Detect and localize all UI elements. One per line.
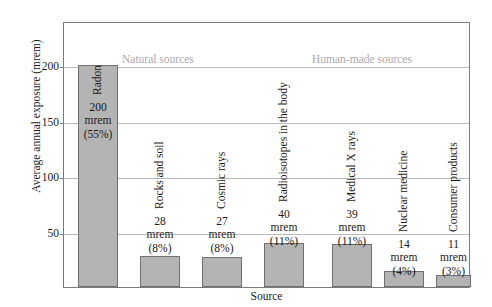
y-axis-tick-label: 50 <box>13 228 59 240</box>
y-axis-tick-mark <box>60 67 64 68</box>
x-axis-title: Source <box>63 290 470 302</box>
bar[interactable] <box>78 65 118 287</box>
y-axis-tick-label: 150 <box>13 117 59 129</box>
bar-value-label: 28mrem(8%) <box>147 215 174 255</box>
plot-area: 50100150200 Natural sources Human-made s… <box>63 22 470 288</box>
bar-value-label: 39mrem(11%) <box>338 208 366 248</box>
bar-category-label: Rocks and soil <box>154 141 166 209</box>
radiation-exposure-bar-chart: Average annual exposure (mrem) 501001502… <box>0 0 492 307</box>
bar-category-label: Nuclear medicine <box>398 151 410 232</box>
y-axis-tick-label: 200 <box>13 62 59 74</box>
bar-value-label: 14mrem(4%) <box>391 238 418 278</box>
bar-value-label: 11mrem(3%) <box>440 238 467 278</box>
bar-value-label: 40mrem(11%) <box>270 208 298 248</box>
y-axis-tick-mark <box>60 234 64 235</box>
bar-group: Consumer products11mrem(3%) <box>436 23 471 287</box>
y-axis-tick-mark <box>60 178 64 179</box>
bar-group: Nuclear medicine14mrem(4%) <box>384 23 424 287</box>
bar-group: Cosmic rays27mrem(8%) <box>202 23 242 287</box>
bar-value-label: 27mrem(8%) <box>209 215 236 255</box>
bar-group: Rocks and soil28mrem(8%) <box>140 23 180 287</box>
y-axis-tick-label: 100 <box>13 172 59 184</box>
bar-category-label: Cosmic rays <box>216 152 228 209</box>
y-axis-tick-mark <box>60 123 64 124</box>
bar[interactable] <box>332 244 372 287</box>
bar-value-label: 200mrem(55%) <box>84 101 113 141</box>
bar-group: Medical X rays39mrem(11%) <box>332 23 372 287</box>
bar[interactable] <box>264 243 304 287</box>
bar-group: Radon200mrem(55%) <box>78 23 118 287</box>
bar-category-label: Radioisotopes in the body <box>278 82 290 202</box>
bar[interactable] <box>140 256 180 287</box>
bar-category-label: Medical X rays <box>346 131 358 202</box>
bar-group: Radioisotopes in the body40mrem(11%) <box>264 23 304 287</box>
bar-category-label: Consumer products <box>448 142 460 232</box>
bar[interactable] <box>202 257 242 287</box>
bar-category-label: Radon <box>92 65 104 95</box>
